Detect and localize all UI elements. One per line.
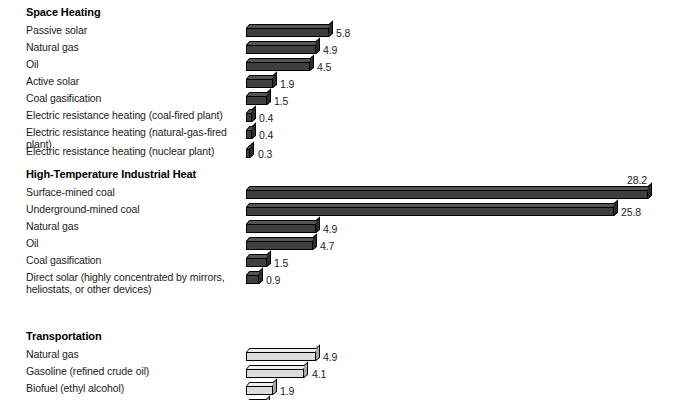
bar-front-face <box>246 96 267 105</box>
row-label: Active solar <box>26 75 79 87</box>
bar-front-face <box>246 352 316 361</box>
bar-3d[interactable] <box>246 75 273 88</box>
bar-value-label: 25.8 <box>621 206 641 218</box>
bar-side-face <box>252 122 256 139</box>
bar-3d[interactable] <box>246 24 329 37</box>
chart-row: Electric resistance heating (nuclear pla… <box>0 145 673 162</box>
row-label: Natural gas <box>26 220 79 232</box>
bar-front-face <box>246 386 273 395</box>
bar-side-face <box>267 88 271 105</box>
bar-front-face <box>246 275 259 284</box>
section-title-space-heating: Space Heating <box>26 6 101 18</box>
bar-side-face <box>273 378 277 395</box>
bar-3d[interactable] <box>246 220 316 233</box>
bar-side-face <box>614 199 618 216</box>
bar-3d[interactable] <box>246 126 252 139</box>
chart-row: Active solar 1.9 <box>0 75 673 92</box>
bar-value-label: 1.9 <box>280 78 294 90</box>
bar-3d[interactable] <box>246 92 267 105</box>
bar-front-face <box>246 258 267 267</box>
row-label: Coal gasification <box>26 92 101 104</box>
bar-value-label: 0.4 <box>259 112 273 124</box>
bar-side-face <box>273 71 277 88</box>
bar-front-face <box>246 79 273 88</box>
bar-front-face <box>246 28 329 37</box>
row-label: Underground-mined coal <box>26 203 139 215</box>
bar-3d[interactable] <box>246 186 648 199</box>
row-label: Biofuel (ethyl alcohol) <box>26 382 124 394</box>
chart-row: Direct solar (highly concentrated by mir… <box>0 271 673 301</box>
bar-value-label: 1.9 <box>280 385 294 397</box>
chart-section-high-temperature-industrial-heat: High-Temperature Industrial Heat Surface… <box>0 162 673 324</box>
bar-side-face <box>267 250 271 267</box>
chart-row: Underground-mined coal 25.8 <box>0 203 673 220</box>
chart-row: Natural gas 4.9 <box>0 348 673 365</box>
bar-front-face <box>246 113 252 122</box>
bar-value-label: 5.8 <box>336 27 350 39</box>
chart-row: Biofuel (ethyl alcohol) 1.9 <box>0 382 673 399</box>
chart-section-space-heating: Space Heating Passive solar 5.8 Natural … <box>0 0 673 162</box>
chart-row: Electric resistance heating (coal-fired … <box>0 109 673 126</box>
bar-value-label: 0.3 <box>258 148 272 160</box>
bar-value-label: 0.9 <box>266 274 280 286</box>
bar-3d[interactable] <box>246 382 273 395</box>
bar-value-label: 28.2 <box>627 174 647 186</box>
bar-value-label: 4.5 <box>317 61 331 73</box>
bar-3d[interactable] <box>246 237 313 250</box>
bar-front-face <box>246 224 316 233</box>
bar-3d[interactable] <box>246 254 267 267</box>
row-label: Passive solar <box>26 24 87 36</box>
bar-front-face <box>246 45 316 54</box>
bar-side-face <box>250 141 254 158</box>
bar-3d[interactable] <box>246 365 304 378</box>
row-label: Coal gasification <box>26 254 101 266</box>
bar-side-face <box>259 267 263 284</box>
chart-row: Oil 4.7 <box>0 237 673 254</box>
chart-row: Oil 4.5 <box>0 58 673 75</box>
bar-3d[interactable] <box>246 145 250 158</box>
row-label: Electric resistance heating (nuclear pla… <box>26 145 214 157</box>
bar-side-face <box>304 361 308 378</box>
bar-front-face <box>246 207 614 216</box>
bar-front-face <box>246 130 252 139</box>
bar-side-face <box>252 105 256 122</box>
bar-3d[interactable] <box>246 41 316 54</box>
bar-3d[interactable] <box>246 271 259 284</box>
row-label: Electric resistance heating (coal-fired … <box>26 109 223 121</box>
bar-front-face <box>246 190 648 199</box>
chart-row: Natural gas 4.9 <box>0 41 673 58</box>
row-label: Oil <box>26 237 39 249</box>
bar-side-face <box>316 216 320 233</box>
bar-3d[interactable] <box>246 58 310 71</box>
bar-front-face <box>246 369 304 378</box>
bar-value-label: 4.9 <box>323 44 337 56</box>
bar-value-label: 4.9 <box>323 223 337 235</box>
bar-front-face <box>246 62 310 71</box>
row-label: Gasoline (refined crude oil) <box>26 365 149 377</box>
bar-value-label: 4.7 <box>320 240 334 252</box>
bar-value-label: 1.5 <box>274 95 288 107</box>
section-title-high-temperature-industrial-heat: High-Temperature Industrial Heat <box>26 168 196 180</box>
bar-value-label: 4.1 <box>312 368 326 380</box>
row-label: Natural gas <box>26 348 79 360</box>
energy-efficiency-bar-chart: Space Heating Passive solar 5.8 Natural … <box>0 0 673 400</box>
bar-3d[interactable] <box>246 109 252 122</box>
chart-row: Natural gas 4.9 <box>0 220 673 237</box>
chart-row: Gasoline (refined crude oil) 4.1 <box>0 365 673 382</box>
bar-side-face <box>316 344 320 361</box>
chart-row: Coal gasification 1.5 <box>0 92 673 109</box>
bar-3d[interactable] <box>246 348 316 361</box>
row-label: Surface-mined coal <box>26 186 115 198</box>
chart-row: Surface-mined coal 28.2 <box>0 186 673 203</box>
chart-row: Passive solar 5.8 <box>0 24 673 41</box>
bar-side-face <box>310 54 314 71</box>
bar-side-face <box>648 182 652 199</box>
bar-front-face <box>246 241 313 250</box>
section-title-transportation: Transportation <box>26 330 102 342</box>
row-label: Natural gas <box>26 41 79 53</box>
chart-row: Coal gasification 1.5 <box>0 254 673 271</box>
bar-3d[interactable] <box>246 203 614 216</box>
row-label: Direct solar (highly concentrated by mir… <box>26 271 251 295</box>
chart-section-transportation: Transportation Natural gas 4.9 Gasoline … <box>0 324 673 400</box>
bar-side-face <box>329 20 333 37</box>
